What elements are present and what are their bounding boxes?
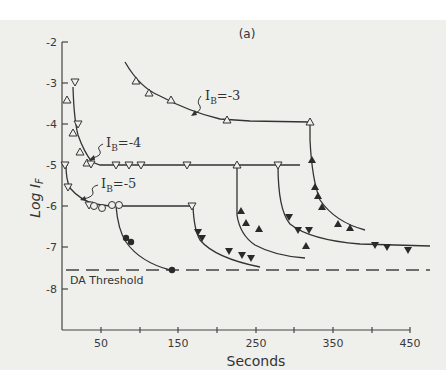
ib4-label-value: =-4 xyxy=(118,135,142,150)
panel-label: (a) xyxy=(239,27,256,41)
y-tick-label: -2 xyxy=(46,36,57,49)
x-tick-label: 50 xyxy=(94,337,108,350)
y-tick-label: -4 xyxy=(46,118,57,131)
x-tick-labels: 50 150 250 350 450 xyxy=(94,337,421,350)
ib3-label-value: =-3 xyxy=(217,88,241,103)
x-tick-label: 450 xyxy=(400,337,421,350)
svg-text:Log IF: Log IF xyxy=(27,178,45,218)
svg-text:IB=-4: IB=-4 xyxy=(106,135,141,153)
threshold-label: DA Threshold xyxy=(70,274,144,287)
y-tick-label: -5 xyxy=(46,159,57,172)
chart-figure: -2 -3 -4 -5 -6 -7 -8 50 150 250 350 450 … xyxy=(0,0,446,390)
annotation-ib3: IB=-3 xyxy=(191,88,240,116)
markers-ib5-drop-72 xyxy=(123,235,175,273)
curves xyxy=(66,62,430,270)
y-tick-label: -8 xyxy=(46,283,57,296)
curve-ib3-drop xyxy=(310,122,365,230)
annotation-ib5: IB=-5 xyxy=(80,176,136,201)
svg-text:IB=-3: IB=-3 xyxy=(205,88,240,106)
svg-text:IB=-5: IB=-5 xyxy=(101,176,136,194)
ib5-label-value: =-5 xyxy=(113,176,137,191)
curve-ib4-base xyxy=(73,87,300,165)
x-tick-label: 350 xyxy=(323,337,344,350)
y-axis-title: Log IF xyxy=(27,178,45,218)
y-tick-labels: -2 -3 -4 -5 -6 -7 -8 xyxy=(46,36,57,296)
markers-ib4-base xyxy=(63,79,282,169)
y-axis-title-main: Log I xyxy=(27,184,43,218)
annotation-ib4: IB=-4 xyxy=(89,135,141,160)
y-tick-label: -6 xyxy=(46,200,57,213)
x-tick-label: 250 xyxy=(246,337,267,350)
x-tick-label: 150 xyxy=(168,337,189,350)
y-tick-label: -7 xyxy=(46,241,57,254)
markers-ib3-drop xyxy=(308,156,354,231)
curve-ib4-drop-225 xyxy=(237,165,305,258)
x-axis-title: Seconds xyxy=(227,353,286,369)
curve-ib4-drop-280 xyxy=(278,165,430,246)
y-tick-label: -3 xyxy=(46,77,57,90)
y-axis-title-sub: F xyxy=(34,178,45,184)
